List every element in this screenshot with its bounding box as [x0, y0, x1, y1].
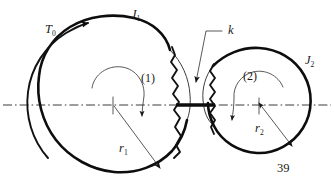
disc-1-rotation-arrow: [92, 67, 144, 116]
label-disc-1: (1): [141, 71, 155, 85]
label-applied-torque: T0: [45, 22, 56, 38]
radius-2-arrow: [259, 103, 292, 146]
figure-canvas: T0 J1 k J2 (1) (2) r1 r2: [0, 0, 334, 193]
label-radius-2: r2: [255, 121, 264, 137]
applied-torque-arrow: [27, 23, 88, 158]
disc-2-rotation-arrow: [232, 71, 283, 120]
spring-leader-line: [196, 31, 222, 82]
disc-1-group: [38, 16, 190, 173]
label-radius-1: r1: [119, 141, 128, 157]
disc-1-thin-arc: [170, 50, 190, 120]
label-figure-number: 39: [277, 161, 290, 175]
label-disc-2: (2): [243, 69, 257, 83]
label-inertia-2: J2: [305, 53, 315, 69]
disc-2-torn-edge: [210, 64, 215, 134]
label-inertia-1: J1: [131, 7, 141, 23]
label-spring-constant: k: [228, 23, 234, 37]
disc-1-outline: [38, 16, 187, 173]
radius-1-arrow: [114, 106, 160, 168]
torsional-system-figure: T0 J1 k J2 (1) (2) r1 r2: [0, 0, 334, 193]
disc-2-group: [203, 48, 311, 153]
